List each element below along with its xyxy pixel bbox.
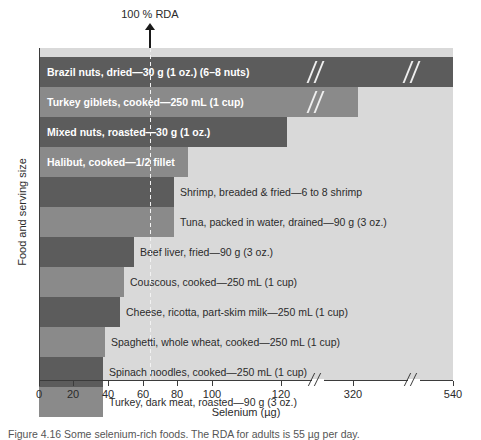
bar-label: Brazil nuts, dried—30 g (1 oz.) (6–8 nut… [47,57,249,87]
x-axis-tick [39,381,40,386]
bar-row: Cheese, ricotta, part-skim milk—250 mL (… [39,297,453,327]
bar-label: Couscous, cooked—250 mL (1 cup) [130,267,297,297]
bar [39,267,124,297]
bar-label: Tuna, packed in water, drained—90 g (3 o… [180,207,387,237]
bar-row: Spinach noodles, cooked—250 mL (1 cup) [39,357,453,387]
x-axis-tick [453,381,454,386]
bar-row: Brazil nuts, dried—30 g (1 oz.) (6–8 nut… [39,57,453,87]
bar-row: Tuna, packed in water, drained—90 g (3 o… [39,207,453,237]
bar-row: Halibut, cooked—1/2 fillet [39,147,453,177]
x-axis-tick-label: 0 [36,388,42,400]
x-axis-tick-label: 120 [272,388,290,400]
bar [39,207,174,237]
x-axis-tick-label: 40 [102,388,114,400]
rda-annotation-group: 100 % RDA [80,8,220,50]
x-axis-tick-label: 80 [171,388,183,400]
x-axis-tick-label: 320 [344,388,362,400]
axis-break-mark [407,61,419,83]
bar [39,327,105,357]
bar [39,297,120,327]
x-axis-break-symbol [407,373,421,386]
plot-top-strip [39,48,453,57]
bar-row: Couscous, cooked—250 mL (1 cup) [39,267,453,297]
x-axis-tick [212,381,213,386]
bar-label: Cheese, ricotta, part-skim milk—250 mL (… [126,297,348,327]
bar-label: Mixed nuts, roasted—30 g (1 oz.) [47,117,210,147]
bar-row: Turkey giblets, cooked—250 mL (1 cup) [39,87,453,117]
bar-label: Halibut, cooked—1/2 fillet [47,147,175,177]
plot-area: Brazil nuts, dried—30 g (1 oz.) (6–8 nut… [39,48,453,380]
x-axis-tick-label: 60 [137,388,149,400]
x-axis-break-symbol [311,373,325,386]
x-axis-tick-label: 540 [444,388,462,400]
bar-row: Spaghetti, whole wheat, cooked—250 mL (1… [39,327,453,357]
bar [39,177,174,207]
figure-caption: Figure 4.16 Some selenium-rich foods. Th… [8,428,478,440]
y-axis-title: Food and serving size [16,102,28,322]
bar [39,357,103,387]
x-axis-tick-label: 20 [67,388,79,400]
x-axis-tick [281,381,282,386]
bar-label: Spinach noodles, cooked—250 mL (1 cup) [109,357,307,387]
x-axis-line [39,380,453,381]
rda-annotation-label: 100 % RDA [80,8,220,20]
x-axis-tick-label: 100 [203,388,221,400]
x-axis-tick [353,381,354,386]
bar-row: Beef liver, fried—90 g (3 oz.) [39,237,453,267]
rda-reference-line [150,48,151,380]
bar [39,237,134,267]
bar-label: Spaghetti, whole wheat, cooked—250 mL (1… [111,327,340,357]
x-axis-tick [177,381,178,386]
x-axis-tick [143,381,144,386]
bar-label: Turkey giblets, cooked—250 mL (1 cup) [47,87,244,117]
rda-arrow-shaft-icon [149,25,151,50]
axis-break-mark [311,61,323,83]
axis-break-mark [311,91,323,113]
bar-label: Beef liver, fried—90 g (3 oz.) [140,237,273,267]
bar-row: Shrimp, breaded & fried—6 to 8 shrimp [39,177,453,207]
x-axis-tick [73,381,74,386]
x-axis-tick [108,381,109,386]
y-axis-line [39,48,40,380]
x-axis-title: Selenium (µg) [39,406,453,418]
bar-row: Mixed nuts, roasted—30 g (1 oz.) [39,117,453,147]
bar-label: Shrimp, breaded & fried—6 to 8 shrimp [180,177,362,207]
